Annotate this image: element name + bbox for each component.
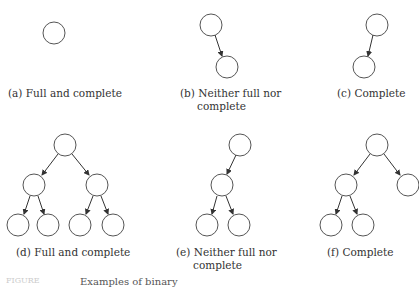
caption-c: (c) Complete bbox=[337, 87, 405, 100]
tree-f-root-node bbox=[366, 134, 388, 156]
caption-b-line2: complete bbox=[197, 100, 246, 113]
tree-d-root-node bbox=[54, 134, 76, 156]
tree-b-root-node bbox=[200, 14, 222, 36]
tree-b-child-node bbox=[216, 56, 238, 78]
tree-c-root-node bbox=[366, 14, 388, 36]
caption-e-line2: complete bbox=[193, 259, 242, 272]
figure-label: FIGURE bbox=[6, 276, 40, 285]
caption-d: (d) Full and complete bbox=[16, 246, 130, 259]
caption-b-line1: (b) Neither full nor bbox=[180, 87, 281, 100]
figure-caption: Examples of binary bbox=[80, 276, 178, 287]
tree-c-child-node bbox=[353, 56, 375, 78]
caption-a: (a) Full and complete bbox=[8, 87, 122, 100]
caption-e-line1: (e) Neither full nor bbox=[176, 246, 277, 259]
tree-e-root-node bbox=[229, 134, 251, 156]
tree-a-root-node bbox=[43, 22, 65, 44]
caption-f: (f) Complete bbox=[327, 246, 393, 259]
